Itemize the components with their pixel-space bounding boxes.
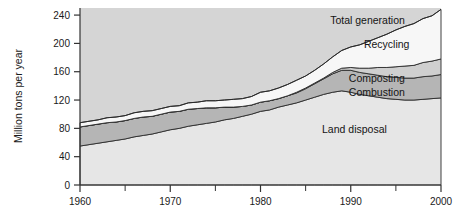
x-tick-label-group: 19601970198019902000 — [69, 196, 453, 207]
x-tick-label: 2000 — [430, 196, 453, 207]
x-tick-label: 1960 — [69, 196, 92, 207]
series-label-total-generation: Total generation — [330, 14, 405, 26]
series-label-composting: Composting — [349, 72, 405, 84]
x-tick-group — [80, 185, 441, 192]
waste-management-area-chart: 04080120160200240 19601970198019902000 M… — [0, 0, 470, 222]
y-tick-label: 80 — [59, 123, 71, 134]
x-tick-label: 1980 — [249, 196, 272, 207]
y-tick-label: 40 — [59, 151, 71, 162]
y-tick-label: 0 — [64, 180, 70, 191]
x-tick-label: 1970 — [159, 196, 182, 207]
y-tick-group — [74, 15, 80, 185]
x-tick-label: 1990 — [340, 196, 363, 207]
y-tick-label: 200 — [53, 38, 70, 49]
y-tick-label: 240 — [53, 10, 70, 21]
y-tick-label: 160 — [53, 66, 70, 77]
chart-figure: 04080120160200240 19601970198019902000 M… — [0, 0, 470, 222]
series-label-recycling: Recycling — [364, 38, 410, 50]
y-axis-title: Million tons per year — [12, 49, 24, 143]
y-tick-label: 120 — [53, 95, 70, 106]
y-tick-label-group: 04080120160200240 — [53, 10, 70, 191]
series-label-land-disposal: Land disposal — [322, 123, 387, 135]
series-label-combustion: Combustion — [349, 86, 405, 98]
